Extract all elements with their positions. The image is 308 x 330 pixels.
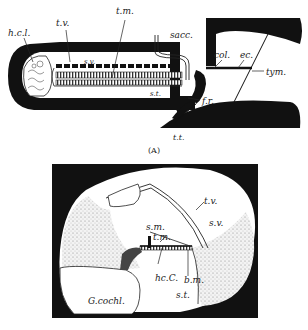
tympanic-membrane <box>230 34 268 110</box>
label-bm-b: b.m. <box>184 275 204 285</box>
label-sv: s.v. <box>84 58 95 66</box>
label-sacc: sacc. <box>170 30 193 40</box>
label-tv: t.v. <box>56 18 69 28</box>
label-ec: ec. <box>240 50 253 60</box>
figure-b: t.v. s.v. s.m. t.m. hc.C. b.m. s.t. G.co… <box>52 164 258 318</box>
tectorial-membrane <box>56 72 182 78</box>
label-fr: f.r. <box>201 96 214 106</box>
label-tm: t.m. <box>116 6 134 16</box>
label-st-b: s.t. <box>176 290 190 300</box>
label-hcl: h.c.l. <box>8 28 30 38</box>
label-tt: t.t. <box>173 133 185 142</box>
ganglion-cochlear <box>60 266 140 314</box>
cochlea-diagram: h.c.l. t.v. t.m. s.v. sacc. col. ec. tym… <box>0 0 308 330</box>
figure-a: h.c.l. t.v. t.m. s.v. sacc. col. ec. tym… <box>8 6 302 155</box>
label-tym: tym. <box>266 67 286 77</box>
label-gcochl-b: G.cochl. <box>88 296 125 306</box>
label-tv-b: t.v. <box>204 196 217 206</box>
label-st: s.t. <box>150 90 161 98</box>
label-sv-b: s.v. <box>209 218 223 228</box>
label-tm-b: t.m. <box>153 232 171 242</box>
label-col: col. <box>214 50 230 60</box>
label-hcc-b: hc.C. <box>155 273 178 283</box>
figure-caption: (A) <box>148 146 160 155</box>
label-sm-b: s.m. <box>146 222 165 232</box>
